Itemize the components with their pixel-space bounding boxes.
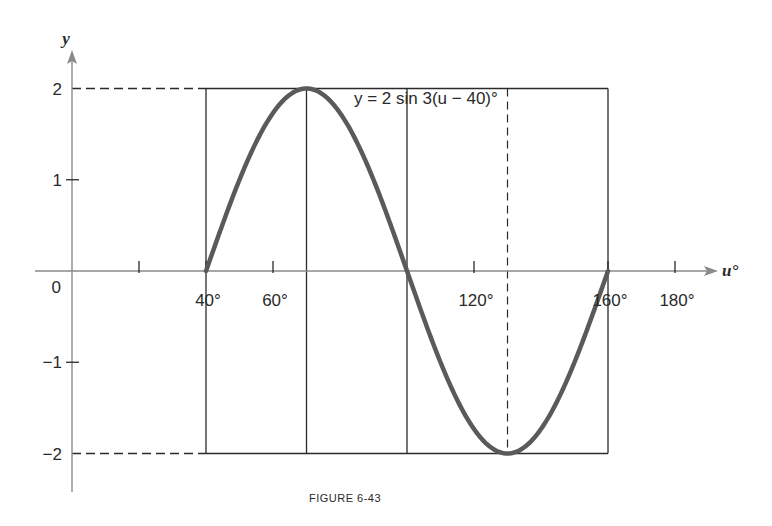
sine-chart: 40°60°120°160°180°210−1−2 y = 2 sin 3(u … [0, 0, 772, 526]
y-tick-label: 0 [52, 278, 61, 297]
x-tick-label: 160° [592, 291, 627, 310]
y-axis-label: y [60, 29, 70, 48]
equation-label: y = 2 sin 3(u − 40)° [354, 89, 498, 108]
y-tick-label: 1 [53, 171, 62, 190]
x-tick-label: 60° [262, 291, 288, 310]
y-tick-label: 2 [53, 80, 62, 99]
y-tick-label: −2 [43, 445, 62, 464]
y-tick-label: −1 [43, 353, 62, 372]
x-tick-label: 40° [195, 291, 221, 310]
x-axis-label: u° [722, 261, 738, 280]
x-tick-label: 120° [458, 291, 493, 310]
figure-caption: FIGURE 6-43 [309, 492, 381, 504]
axes [35, 50, 718, 492]
x-tick-label: 180° [659, 291, 694, 310]
